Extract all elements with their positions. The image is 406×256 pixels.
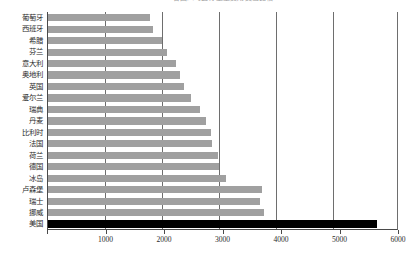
bar-row: 法国 [0,138,404,149]
category-label: 瑞士 [0,196,43,207]
category-label: 挪威 [0,207,43,218]
bar-row: 比利时 [0,127,404,138]
x-tick [164,230,165,234]
x-tick [223,230,224,234]
bar-葡萄牙 [48,14,150,21]
bar-row: 冰岛 [0,173,404,184]
category-label: 比利时 [0,127,43,138]
x-tick [106,230,107,234]
bar-冰岛 [48,175,226,182]
bar-row: 瑞典 [0,104,404,115]
bar-希腊 [48,37,162,44]
bar-row: 意大利 [0,58,404,69]
x-tick-label: 3000 [215,235,230,244]
category-label: 芬兰 [0,46,43,57]
bar-row: 葡萄牙 [0,12,404,23]
x-tick-label: 6000 [390,235,405,244]
category-label: 荷兰 [0,150,43,161]
x-tick [398,230,399,234]
x-tick [340,230,341,234]
bar-法国 [48,140,212,147]
bar-row: 西班牙 [0,23,404,34]
bar-row: 芬兰 [0,46,404,57]
x-tick-label: 1000 [98,235,113,244]
category-label: 爱尔兰 [0,92,43,103]
bar-瑞士 [48,198,260,205]
category-label: 冰岛 [0,173,43,184]
category-label: 卢森堡 [0,184,43,195]
category-label: 丹麦 [0,115,43,126]
bar-row: 瑞士 [0,196,404,207]
bar-row: 挪威 [0,207,404,218]
bar-丹麦 [48,117,206,124]
bar-row: 希腊 [0,35,404,46]
x-tick [281,230,282,234]
bar-row: 丹麦 [0,115,404,126]
category-label: 奥地利 [0,69,43,80]
x-tick-label: 4000 [273,235,288,244]
bar-row: 荷兰 [0,150,404,161]
category-label: 西班牙 [0,23,43,34]
x-axis: 100020003000400050006000 [0,230,404,250]
bar-row: 美国 [0,218,404,229]
category-label: 德国 [0,161,43,172]
x-tick [47,230,48,234]
bar-意大利 [48,60,176,67]
bar-芬兰 [48,49,167,56]
category-label: 美国 [0,218,43,229]
bar-row: 卢森堡 [0,184,404,195]
bar-row: 德国 [0,161,404,172]
bar-row: 奥地利 [0,69,404,80]
category-label: 英国 [0,81,43,92]
x-tick-label: 5000 [332,235,347,244]
bar-荷兰 [48,152,218,159]
bar-英国 [48,83,184,90]
bar-瑞典 [48,106,200,113]
bar-卢森堡 [48,186,262,193]
bar-rows: 葡萄牙西班牙希腊芬兰意大利奥地利英国爱尔兰瑞典丹麦比利时法国荷兰德国冰岛卢森堡瑞… [0,12,404,230]
category-label: 法国 [0,138,43,149]
bar-row: 英国 [0,81,404,92]
bar-奥地利 [48,71,180,78]
chart-title: 各国人均医疗卫生费用支出比较 [108,0,338,2]
bar-row: 爱尔兰 [0,92,404,103]
category-label: 瑞典 [0,104,43,115]
bar-挪威 [48,209,264,216]
bar-美国 [48,220,377,228]
category-label: 希腊 [0,35,43,46]
x-tick-label: 2000 [156,235,171,244]
bar-西班牙 [48,26,153,33]
category-label: 葡萄牙 [0,12,43,23]
category-label: 意大利 [0,58,43,69]
bar-爱尔兰 [48,94,191,101]
bar-比利时 [48,129,211,136]
bar-德国 [48,163,219,170]
